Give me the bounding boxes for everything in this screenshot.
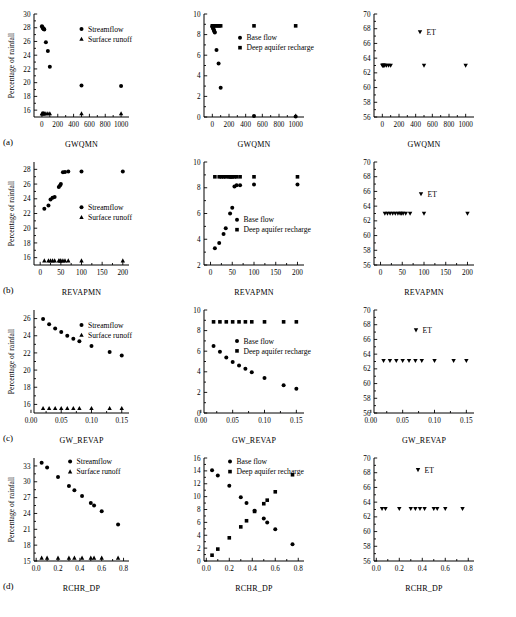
x-tick-label: 0.4 — [418, 565, 427, 573]
data-point — [400, 359, 404, 363]
y-tick-label: 56 — [363, 558, 371, 566]
y-tick-label: 24 — [23, 195, 31, 203]
data-point — [77, 339, 81, 343]
x-tick-label: 0.8 — [294, 565, 303, 573]
data-point — [432, 507, 436, 511]
x-axis-ticks: 02004006008001000 — [381, 114, 474, 129]
data-point — [56, 475, 60, 479]
y-tick-label: 12 — [193, 480, 201, 488]
data-point — [235, 175, 239, 179]
x-axis-ticks: 02004006008001000 — [40, 114, 129, 129]
y-tick-label: 18 — [23, 240, 31, 248]
y-axis-ticks: 1618202224262830 — [23, 11, 37, 115]
y-tick-label: 70 — [363, 455, 371, 463]
data-point — [262, 517, 266, 521]
x-tick-label: 400 — [240, 121, 251, 129]
legend-label: Surface runoff — [88, 213, 132, 222]
y-tick-label: 64 — [363, 55, 371, 63]
y-tick-label: 20 — [23, 367, 31, 375]
x-tick-label: 0.05 — [226, 417, 239, 425]
y-tick-label: 10 — [193, 159, 201, 167]
data-point — [47, 406, 51, 410]
x-tick-label: 0.15 — [460, 417, 473, 425]
legend: StreamflowSurface runoff — [68, 457, 121, 476]
data-point — [222, 232, 226, 236]
data-point — [263, 320, 267, 324]
legend-marker — [80, 323, 84, 327]
data-point — [120, 406, 124, 410]
data-point — [77, 406, 81, 410]
scatter-plot-b-left: 16182022242628050100150200REVAPMNPercent… — [0, 148, 176, 296]
x-tick-label: 600 — [427, 121, 438, 129]
data-point — [42, 27, 46, 31]
series-deep-aquifer-recharge — [212, 320, 298, 324]
y-tick-label: 58 — [363, 543, 371, 551]
legend: ET — [416, 466, 434, 475]
x-tick-label: 0 — [379, 269, 383, 277]
scatter-plot-a-right: 565860626466687002004006008001000GWQMNET — [340, 0, 516, 148]
y-tick-label: 28 — [23, 166, 31, 174]
y-tick-label: 10 — [193, 11, 201, 19]
legend-marker — [238, 46, 242, 50]
panel-d-mid: 02468101214160.00.20.40.60.8RCHR_DPBase … — [172, 444, 344, 592]
x-tick-label: 0.15 — [290, 417, 303, 425]
x-axis-title: GWQMN — [65, 140, 98, 148]
data-point — [72, 488, 76, 492]
data-point — [65, 406, 69, 410]
legend: ET — [414, 326, 432, 335]
data-point — [210, 468, 214, 472]
x-tick-label: 0.10 — [258, 417, 271, 425]
data-point — [239, 525, 243, 529]
legend-marker — [228, 470, 232, 474]
x-tick-label: 0.4 — [248, 565, 257, 573]
panel-row-c: 1618202224260.000.050.100.15GW_REVAPPerc… — [0, 296, 516, 444]
data-point — [239, 495, 243, 499]
data-point — [216, 547, 220, 551]
data-point — [42, 207, 46, 211]
x-tick-label: 0.2 — [225, 565, 234, 573]
data-point — [47, 322, 51, 326]
series-et — [381, 359, 468, 363]
data-point — [39, 556, 43, 560]
data-point — [231, 320, 235, 324]
data-point — [252, 24, 256, 28]
legend-label: ET — [427, 28, 437, 37]
panel-label: (c) — [3, 433, 13, 443]
x-axis-title: REVAPMN — [234, 288, 274, 296]
x-axis-title: RCHR_DP — [63, 584, 101, 592]
data-point — [89, 406, 93, 410]
panel-a-left: 161820222426283002004006008001000GWQMNPe… — [0, 0, 176, 148]
y-tick-label: 22 — [23, 210, 31, 218]
data-point — [227, 484, 231, 488]
data-point — [218, 350, 222, 354]
data-point — [213, 246, 217, 250]
y-tick-label: 30 — [23, 478, 31, 486]
scatter-plot-d-left: 151821242730330.00.20.40.60.8RCHR_DPPerc… — [0, 444, 176, 592]
legend-label: Streamflow — [88, 203, 124, 212]
data-point — [80, 170, 84, 174]
legend: StreamflowSurface runoff — [79, 203, 132, 222]
legend-label: Streamflow — [88, 25, 124, 34]
series-base-flow — [210, 468, 294, 546]
x-tick-label: 100 — [419, 269, 430, 277]
x-tick-label: 0.6 — [97, 565, 106, 573]
y-tick-label: 56 — [363, 262, 371, 270]
data-point — [238, 175, 242, 179]
scatter-plot-d-mid: 02468101214160.00.20.40.60.8RCHR_DPBase … — [172, 444, 344, 592]
data-point — [383, 507, 387, 511]
data-point — [40, 461, 44, 465]
data-point — [265, 520, 269, 524]
data-point — [463, 64, 467, 68]
y-tick-label: 8 — [197, 327, 201, 335]
y-tick-label: 64 — [363, 499, 371, 507]
data-point — [460, 507, 464, 511]
y-axis-ticks: 5658606264666870 — [363, 455, 377, 566]
y-axis-ticks: 246810 — [193, 159, 207, 270]
data-point — [120, 353, 124, 357]
x-tick-label: 0.05 — [55, 417, 68, 425]
y-tick-label: 66 — [363, 188, 371, 196]
y-axis-ticks: 0246810121416 — [193, 455, 207, 566]
data-point — [66, 258, 70, 262]
series-et — [380, 507, 465, 511]
x-axis-title: RCHR_DP — [405, 584, 443, 592]
